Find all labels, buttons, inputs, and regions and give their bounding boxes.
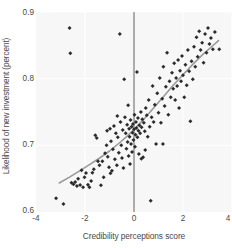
plot-area — [0, 0, 232, 248]
scatter-plot-figure: Likelihood of new investment (percent) 0… — [0, 0, 232, 248]
